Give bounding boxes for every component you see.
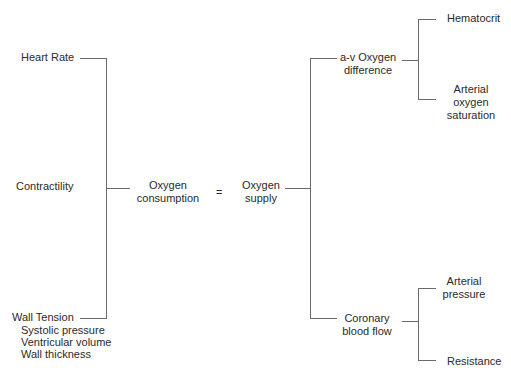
coronary-sub-bracket xyxy=(418,288,419,361)
av-sub-bracket xyxy=(418,19,419,100)
heart-rate-label: Heart Rate xyxy=(21,51,74,64)
hematocrit-label: Hematocrit xyxy=(447,12,500,25)
av-difference-connector xyxy=(310,58,337,59)
coronary-flow-connector xyxy=(310,318,337,319)
left-bracket-stub xyxy=(106,188,130,189)
equals-sign: = xyxy=(216,186,222,199)
contractility-label: Contractility xyxy=(16,180,73,193)
right-bracket-stub xyxy=(285,188,310,189)
coronary-sub-stub xyxy=(402,321,418,322)
av-sub-stub xyxy=(402,60,418,61)
wall-thickness-label: Wall thickness xyxy=(21,348,91,361)
wall-tension-connector xyxy=(80,318,107,319)
resistance-label: Resistance xyxy=(447,355,501,368)
wall-tension-label: Wall Tension xyxy=(12,311,74,324)
coronary-blood-flow-label: Coronary blood flow xyxy=(338,312,396,338)
hematocrit-connector xyxy=(418,19,436,20)
right-bracket xyxy=(310,58,311,319)
oxygen-supply-label: Oxygen supply xyxy=(233,179,289,205)
arterial-oxygen-saturation-label: Arterial oxygen saturation xyxy=(438,83,504,122)
arterial-pressure-label: Arterial pressure xyxy=(434,275,494,301)
av-oxygen-difference-label: a-v Oxygen difference xyxy=(336,51,400,77)
heart-rate-connector xyxy=(80,58,107,59)
saturation-connector xyxy=(418,99,436,100)
oxygen-consumption-label: Oxygen consumption xyxy=(133,179,203,205)
resistance-connector xyxy=(418,360,436,361)
